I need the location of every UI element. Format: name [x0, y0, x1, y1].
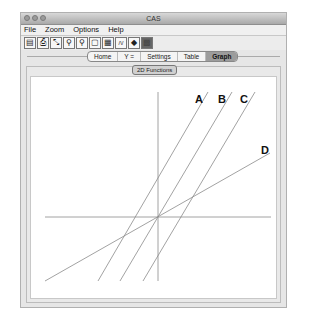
save-icon[interactable]: ▤ — [24, 37, 36, 49]
title-bar: CAS — [21, 13, 286, 25]
menu-help[interactable]: Help — [108, 25, 123, 35]
tab-home[interactable]: Home — [88, 52, 118, 61]
cas-window: CAS File Zoom Options Help ▤ ⎙ ⤡ ⚲ ⚲ ▢ ▦… — [20, 12, 287, 308]
label-a: A — [195, 93, 203, 105]
tab-y-equals[interactable]: Y = — [118, 52, 141, 61]
window-title: CAS — [21, 13, 286, 24]
graph-panel: 2D Functions ABCD — [26, 66, 281, 303]
calculator-icon[interactable]: ▦ — [102, 37, 114, 49]
subtab-2d-functions[interactable]: 2D Functions — [132, 65, 177, 75]
menu-zoom[interactable]: Zoom — [45, 25, 64, 35]
label-d: D — [261, 144, 269, 156]
zoom-out-icon[interactable]: ⚲ — [76, 37, 88, 49]
line-b — [120, 92, 232, 281]
graph-icon[interactable]: /\/ — [115, 37, 127, 49]
menu-options[interactable]: Options — [73, 25, 99, 35]
zoom-box-icon[interactable]: ▢ — [89, 37, 101, 49]
line-c — [143, 92, 255, 281]
function-lines — [45, 92, 270, 281]
tab-settings[interactable]: Settings — [141, 52, 178, 61]
tab-table[interactable]: Table — [178, 52, 207, 61]
trace-icon[interactable]: ◆ — [128, 37, 140, 49]
function-labels: ABCD — [195, 93, 269, 156]
graph-canvas[interactable]: ABCD — [30, 76, 277, 299]
label-b: B — [218, 93, 226, 105]
toolbar: ▤ ⎙ ⤡ ⚲ ⚲ ▢ ▦ /\/ ◆ ▩ — [21, 36, 286, 50]
print-icon[interactable]: ⎙ — [37, 37, 49, 49]
line-a — [98, 92, 208, 281]
menu-bar: File Zoom Options Help — [21, 25, 286, 36]
graph-plot: ABCD — [31, 77, 276, 298]
tab-graph[interactable]: Graph — [206, 52, 237, 61]
menu-file[interactable]: File — [24, 25, 36, 35]
grid-icon[interactable]: ▩ — [141, 37, 153, 49]
label-c: C — [240, 93, 248, 105]
tab-row: Home Y = Settings Table Graph — [21, 50, 286, 62]
tab-bar: Home Y = Settings Table Graph — [87, 51, 238, 62]
edit-icon[interactable]: ⤡ — [50, 37, 62, 49]
zoom-in-icon[interactable]: ⚲ — [63, 37, 75, 49]
